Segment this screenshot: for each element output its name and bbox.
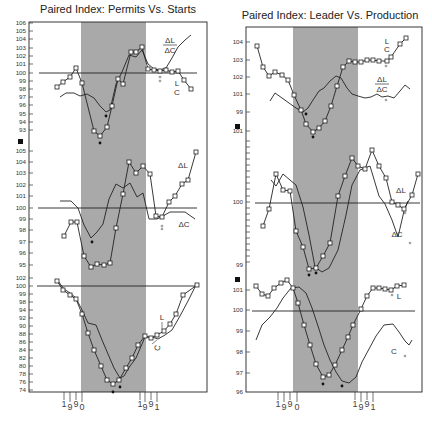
left-chart: Paired Index: Permits Vs. Starts <box>16 3 207 412</box>
right-top-label-dc: ΔC <box>376 85 387 94</box>
left-bot-label-c: C <box>153 344 163 351</box>
right-bot-label-c: C <box>391 347 397 356</box>
left-bot-tick-labels: 102 100 99 98 94 92 90 88 86 84 82 80 78… <box>16 274 27 393</box>
svg-text:1: 1 <box>275 399 280 409</box>
svg-text:101: 101 <box>233 90 244 97</box>
right-top-circle-1 <box>385 65 387 67</box>
right-mid-label-dl: ΔL <box>396 186 406 195</box>
svg-text:106: 106 <box>16 19 27 26</box>
svg-text:95: 95 <box>19 110 26 117</box>
left-recession-shading <box>81 22 146 392</box>
left-top-tick-labels: 106 105 104 103 102 101 100 99 98 97 96 … <box>16 19 27 133</box>
svg-text:98: 98 <box>19 298 26 305</box>
right-bot-tick-labels: 101 100 99 98 97 96 <box>233 286 244 395</box>
svg-text:98: 98 <box>236 348 243 355</box>
svg-text:88: 88 <box>19 330 26 337</box>
right-axis-ticks <box>246 42 250 373</box>
right-panel-break-marker-2 <box>235 277 240 282</box>
svg-text:93: 93 <box>19 126 26 133</box>
left-top-peak-circle-2 <box>159 80 161 82</box>
svg-text:9: 9 <box>287 399 292 409</box>
svg-text:105: 105 <box>16 147 27 154</box>
svg-text:104: 104 <box>16 35 27 42</box>
right-mid-trough-dot-1 <box>308 274 311 277</box>
chart-figure: Paired Index: Permits Vs. Starts <box>0 0 432 421</box>
svg-text:99: 99 <box>236 327 243 334</box>
left-x-label-1991: 1 9 9 1 <box>137 399 159 412</box>
svg-text:102: 102 <box>16 274 27 281</box>
svg-text:100: 100 <box>233 198 244 205</box>
svg-text:94: 94 <box>19 306 26 313</box>
right-mid-label-dc: ΔC <box>391 230 402 239</box>
svg-text:1: 1 <box>352 399 357 409</box>
right-top-label-c: C <box>384 45 390 54</box>
left-top-label-dl: ΔL <box>165 36 175 45</box>
svg-text:103: 103 <box>16 169 27 176</box>
svg-text:98: 98 <box>19 226 26 233</box>
svg-text:96: 96 <box>19 101 26 108</box>
svg-text:104: 104 <box>16 158 27 165</box>
svg-text:100: 100 <box>16 282 27 289</box>
svg-text:102: 102 <box>233 73 244 80</box>
svg-text:99: 99 <box>19 77 26 84</box>
svg-text:86: 86 <box>19 338 26 345</box>
right-chart-title: Paired Index: Leader Vs. Production <box>242 9 419 21</box>
svg-text:99: 99 <box>236 108 243 115</box>
left-chart-title: Paired Index: Permits Vs. Starts <box>40 3 196 15</box>
svg-text:9: 9 <box>358 402 363 412</box>
left-mid-label-dl: ΔL <box>178 161 188 170</box>
svg-text:105: 105 <box>16 27 27 34</box>
svg-text:103: 103 <box>16 44 27 51</box>
svg-text:100: 100 <box>16 204 27 211</box>
svg-text:9: 9 <box>364 399 369 409</box>
svg-text:92: 92 <box>19 314 26 321</box>
svg-text:9: 9 <box>73 399 78 409</box>
svg-text:1: 1 <box>154 402 159 412</box>
left-panel-break-marker-1 <box>18 139 23 144</box>
right-mid-tick-labels: 101 100 99 <box>233 127 244 268</box>
left-mid-tick-labels: 105 104 103 102 101 100 99 98 97 96 95 <box>16 147 27 268</box>
svg-text:101: 101 <box>16 192 27 199</box>
left-top-trough-dot-1 <box>105 115 108 118</box>
right-mid-circle-2 <box>409 242 411 244</box>
svg-text:9: 9 <box>148 399 153 409</box>
svg-text:98: 98 <box>19 85 26 92</box>
svg-text:100: 100 <box>16 69 27 76</box>
left-top-label-c: C <box>174 88 180 97</box>
right-x-label-1991: 1 9 9 1 <box>352 399 375 412</box>
right-bot-circle-2 <box>404 355 406 357</box>
svg-text:84: 84 <box>19 346 26 353</box>
right-top-tick-labels: 104 103 102 101 99 <box>233 38 244 115</box>
svg-text:102: 102 <box>16 52 27 59</box>
svg-text:94: 94 <box>19 118 26 125</box>
left-top-trough-dot-2 <box>99 142 102 145</box>
svg-text:103: 103 <box>233 56 244 63</box>
left-top-peak-circle-1 <box>159 76 161 78</box>
left-top-label-dc: ΔC <box>164 46 175 55</box>
left-axis-ticks <box>29 23 33 390</box>
right-top-trough-dot-1 <box>305 113 308 116</box>
svg-text:90: 90 <box>19 322 26 329</box>
left-bot-c-arrow <box>152 340 157 344</box>
left-bot-trough-dot-2 <box>119 386 122 389</box>
right-mid-circle-1 <box>404 212 406 214</box>
svg-text:0: 0 <box>79 402 84 412</box>
svg-text:102: 102 <box>16 181 27 188</box>
left-top-label-l: L <box>175 79 180 88</box>
svg-text:9: 9 <box>281 402 286 412</box>
left-x-label-1990: 1 9 9 0 <box>61 399 84 412</box>
svg-text:104: 104 <box>233 38 244 45</box>
svg-text:95: 95 <box>19 261 26 268</box>
svg-text:101: 101 <box>233 127 244 134</box>
svg-text:99: 99 <box>19 290 26 297</box>
right-top-circle-2 <box>385 99 387 101</box>
right-bot-label-l: L <box>397 292 402 301</box>
svg-text:100: 100 <box>233 306 244 313</box>
left-mid-circle-2 <box>161 228 163 230</box>
right-bot-trough-dot-2 <box>341 385 344 388</box>
svg-text:1: 1 <box>370 402 375 412</box>
svg-text:97: 97 <box>19 238 26 245</box>
svg-text:96: 96 <box>19 249 26 256</box>
right-x-label-1990: 1 9 9 0 <box>275 399 299 412</box>
svg-text:76: 76 <box>19 378 26 385</box>
